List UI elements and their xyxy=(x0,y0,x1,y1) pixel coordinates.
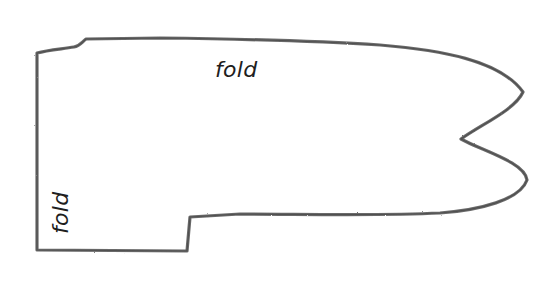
pattern-diagram: fold fold xyxy=(0,0,560,281)
pattern-outline-overlay xyxy=(37,38,527,251)
fold-label-side: fold xyxy=(50,192,72,234)
pattern-outline-shape xyxy=(0,0,560,281)
pattern-outline-path xyxy=(37,38,527,251)
fold-label-top: fold xyxy=(215,59,257,81)
